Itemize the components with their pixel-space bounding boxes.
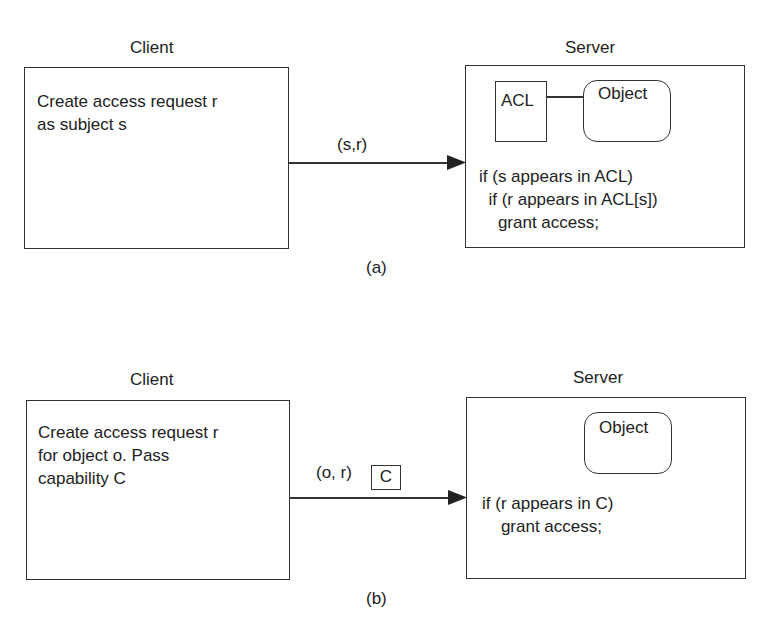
server-title-b: Server xyxy=(573,368,623,388)
client-title-b: Client xyxy=(130,370,173,390)
arrow-line-a xyxy=(289,162,449,164)
server-code-a: if (s appears in ACL) if (r appears in A… xyxy=(479,165,658,234)
caption-a: (a) xyxy=(366,258,387,278)
arrow-line-b xyxy=(290,497,450,499)
server-code-b: if (r appears in C) grant access; xyxy=(482,492,613,538)
acl-box: ACL xyxy=(495,81,547,142)
server-box-a: ACL Object if (s appears in ACL) if (r a… xyxy=(465,65,745,248)
message-label-a: (s,r) xyxy=(337,135,367,155)
caption-b: (b) xyxy=(366,589,387,609)
server-box-b: Object if (r appears in C) grant access; xyxy=(466,397,746,579)
client-box-a: Create access request r as subject s xyxy=(24,67,289,249)
acl-object-link xyxy=(546,96,584,98)
object-box-b: Object xyxy=(584,412,672,474)
client-text-b: Create access request r for object o. Pa… xyxy=(38,421,218,490)
client-box-b: Create access request r for object o. Pa… xyxy=(26,400,290,580)
object-box-a: Object xyxy=(583,80,671,142)
capability-box: C xyxy=(371,465,401,490)
client-title-a: Client xyxy=(130,38,173,58)
message-label-b: (o, r) xyxy=(316,463,352,483)
object-label-b: Object xyxy=(599,418,648,438)
object-label-a: Object xyxy=(598,84,647,104)
client-text-a: Create access request r as subject s xyxy=(37,90,217,136)
server-title-a: Server xyxy=(565,38,615,58)
acl-label: ACL xyxy=(501,91,534,111)
